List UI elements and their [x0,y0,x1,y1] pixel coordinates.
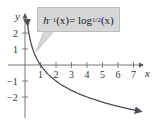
callout-pointer [36,31,54,52]
x-tick-label: 1 [38,69,43,80]
callout-arg: (x) [56,14,69,26]
callout-arg2: (x) [101,14,114,26]
y-axis-label: y [14,10,20,22]
x-tick-label: 5 [100,69,105,80]
y-tick-label: 2 [13,28,18,39]
callout-sub: 1/2 [92,16,101,24]
x-tick-label: 6 [116,69,121,80]
function-callout: h−1(x) = log1/2(x) [37,7,120,32]
y-tick-label: −1 [7,76,18,87]
x-tick-label: 2 [54,69,59,80]
x-tick-label: 7 [131,69,136,80]
callout-sup: −1 [49,16,56,24]
x-tick-label: 4 [85,69,90,80]
x-tick-label: 3 [69,69,74,80]
y-tick-label: −2 [7,92,18,103]
y-tick-label: 1 [13,44,18,55]
callout-eq: = log [69,14,92,26]
x-axis-label: x [144,67,150,79]
